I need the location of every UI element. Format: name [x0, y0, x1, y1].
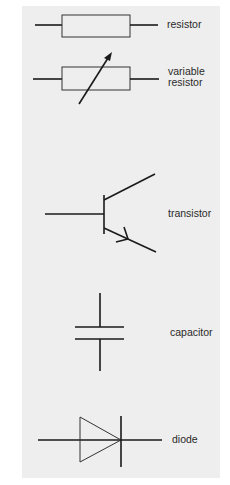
variable-resistor-arrowhead — [104, 52, 112, 61]
capacitor-symbol — [75, 293, 124, 371]
variable-resistor-symbol — [33, 52, 159, 104]
transistor-label: transistor — [168, 208, 211, 219]
transistor-symbol — [45, 174, 156, 252]
resistor-symbol — [35, 15, 158, 37]
capacitor-label: capacitor — [170, 327, 213, 338]
transistor-collector — [104, 174, 155, 200]
variable-resistor-label: variable resistor — [168, 66, 205, 88]
transistor-emitter — [104, 228, 156, 252]
variable-resistor-arrow-shaft — [79, 58, 108, 104]
diode-label: diode — [172, 434, 198, 445]
resistor-body — [62, 15, 130, 37]
resistor-label: resistor — [167, 19, 201, 30]
diode-symbol — [38, 416, 162, 467]
